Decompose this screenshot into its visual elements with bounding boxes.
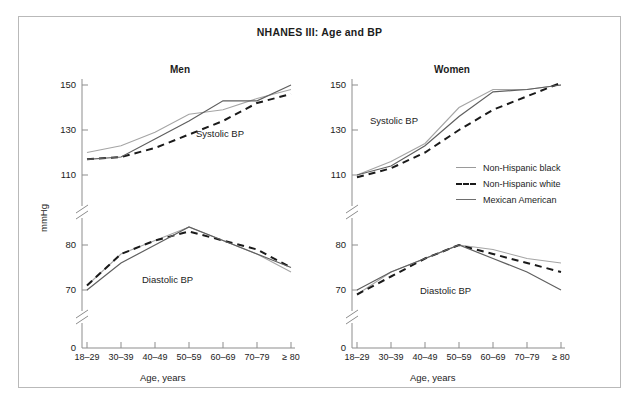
chart-page: NHANES III: Age and BP Men mmHg 150 130 … [0, 0, 639, 405]
curve-men-diastolic-non-hispanic-white [87, 232, 291, 286]
curve-women-diastolic-non-hispanic-white [357, 245, 561, 295]
curve-men-systolic-non-hispanic-white [87, 94, 291, 159]
curve-women-diastolic-non-hispanic-black [357, 245, 561, 295]
plot-canvas [0, 0, 639, 405]
curve-men-systolic-mexican-american [87, 85, 291, 159]
curve-women-diastolic-mexican-american [357, 245, 561, 290]
